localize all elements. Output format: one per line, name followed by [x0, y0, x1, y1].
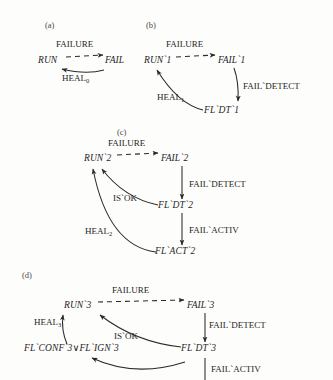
- state-node-run3-d: RUN`3: [64, 301, 91, 311]
- edge-label-heal2-c: HEAL2: [85, 227, 112, 238]
- edge-label-heal3-d: HEAL3: [34, 318, 61, 329]
- edge-label-heal2-c-text: HEAL: [85, 226, 109, 236]
- edge-flact-run-c: [93, 169, 156, 252]
- state-node-run-a: RUN: [38, 56, 57, 66]
- state-node-fldt3-d: FL`DT`3: [181, 344, 216, 354]
- state-node-fldt2-c: FL`DT`2: [158, 201, 193, 211]
- state-node-run1-b: RUN`1: [144, 56, 171, 66]
- edge-label-heal3-d-sub: 3: [58, 321, 61, 328]
- edge-label-heal1-b-sub: 1: [181, 96, 184, 103]
- panel-label-b: (b): [146, 21, 156, 30]
- state-node-run2-c: RUN`2: [84, 154, 111, 164]
- edge-label-failure-d: FAILURE: [112, 286, 149, 295]
- edge-run-fail-c: [117, 153, 158, 155]
- state-node-fail1-b: FAIL`1: [218, 56, 245, 66]
- edge-label-failactiv-c: FAIL`ACTIV: [189, 226, 239, 235]
- edge-label-heal3-d-text: HEAL: [34, 317, 58, 327]
- edge-label-heal-a: HEAL0: [62, 74, 89, 85]
- edge-label-heal-a-text: HEAL: [62, 73, 86, 83]
- edge-fail-fldt-b: [234, 68, 238, 101]
- edge-label-heal1-b: HEAL1: [157, 93, 184, 104]
- edge-run-fail-d: [98, 300, 184, 302]
- state-node-flconf3-d: FL`CONF`3∨FL`IGN`3: [24, 344, 119, 354]
- edge-label-isok-c: IS`OK: [113, 194, 137, 203]
- state-node-fldt1-b: FL`DT`1: [204, 106, 239, 116]
- edge-fail-run-a: [62, 69, 104, 72]
- edge-label-faildetect-c: FAIL`DETECT: [189, 180, 246, 189]
- edge-run-fail-a: [66, 55, 103, 57]
- panel-label-a: (a): [45, 21, 54, 30]
- edge-fldt-run-b: [157, 70, 203, 110]
- state-node-fail3-d: FAIL`3: [187, 301, 214, 311]
- edge-label-heal2-c-sub: 2: [109, 230, 112, 237]
- edge-fldt-flconf-d: [92, 358, 185, 369]
- edge-label-faildetect-d: FAIL`DETECT: [209, 321, 266, 330]
- state-node-fail-a: FAIL: [105, 56, 124, 66]
- edge-run-fail-b: [176, 55, 215, 57]
- edge-label-failactiv-d: FAIL`ACTIV: [211, 365, 261, 374]
- edge-label-failure-c: FAILURE: [108, 139, 145, 148]
- state-node-fail2-c: FAIL`2: [161, 154, 188, 164]
- panel-label-d: (d): [22, 271, 32, 280]
- edge-flconf-run-d: [63, 315, 68, 344]
- edge-label-heal1-b-text: HEAL: [157, 92, 181, 102]
- edge-label-isok-d: IS`OK: [114, 332, 138, 341]
- figure-canvas: (a) (b) (c) (d) RUN FAIL FAILURE HEAL0 R…: [0, 0, 333, 380]
- edge-label-failure-a: FAILURE: [56, 40, 93, 49]
- edge-label-heal-a-sub: 0: [86, 77, 89, 84]
- panel-label-c: (c): [117, 128, 126, 137]
- edge-label-failure-b: FAILURE: [166, 40, 203, 49]
- state-node-flact2-c: FL`ACT`2: [155, 247, 195, 257]
- edge-label-faildetect-b: FAIL`DETECT: [243, 82, 300, 91]
